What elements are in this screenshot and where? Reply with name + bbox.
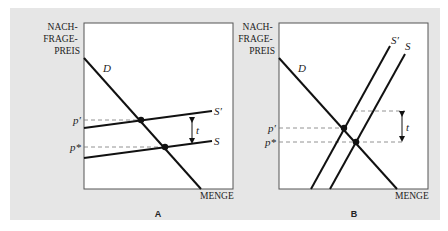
panel-a-y-axis-label: NACH- FRAGE- PREIS xyxy=(43,22,80,56)
panel-b-demand-label: D xyxy=(297,62,306,74)
tax-incidence-diagram: NACH- FRAGE- PREIS MENGE D S′ S t p′ p* … xyxy=(0,0,448,231)
panel-a-x-axis-label: MENGE xyxy=(200,191,234,201)
panel-a: NACH- FRAGE- PREIS MENGE D S′ S t p′ p* … xyxy=(43,22,234,219)
panel-a-p-star-label: p* xyxy=(69,141,82,153)
panel-a-equilibrium-p-star-dot xyxy=(162,144,168,150)
panel-b-p-star-label: p* xyxy=(264,136,277,148)
panel-b-equilibrium-p-star-dot xyxy=(353,139,359,145)
panel-b: NACH- FRAGE- PREIS MENGE D S′ S t p′ p* … xyxy=(238,22,429,219)
panel-a-supply-shifted-label: S′ xyxy=(214,105,223,117)
panel-b-supply-label: S xyxy=(405,40,411,52)
panel-b-y-axis-label: NACH- FRAGE- PREIS xyxy=(238,22,275,56)
panel-b-caption: B xyxy=(351,209,358,219)
panel-b-equilibrium-p-prime-dot xyxy=(341,125,347,131)
panel-a-caption: A xyxy=(155,209,162,219)
panel-a-equilibrium-p-prime-dot xyxy=(138,117,144,123)
panel-a-supply-label: S xyxy=(214,135,220,147)
panel-a-demand-label: D xyxy=(102,62,111,74)
panel-b-supply-shifted-label: S′ xyxy=(391,34,400,46)
panel-a-plot-area xyxy=(84,23,233,189)
panel-b-p-prime-label: p′ xyxy=(267,122,277,134)
panel-b-x-axis-label: MENGE xyxy=(395,191,429,201)
panel-a-p-prime-label: p′ xyxy=(72,114,82,126)
